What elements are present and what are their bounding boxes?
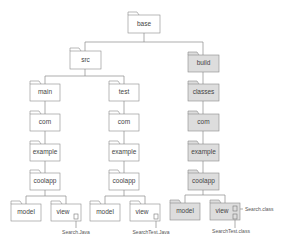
folder-com3: com xyxy=(188,111,219,131)
folder-label: example xyxy=(112,148,137,156)
file-icon xyxy=(233,206,237,211)
folder-classes: classes xyxy=(188,81,219,101)
folder-build: build xyxy=(188,52,219,72)
folder-tab-icon xyxy=(30,170,41,173)
file-label: SearchTest.class xyxy=(212,228,250,234)
folder-coolapp1: coolapp xyxy=(30,170,60,190)
folder-tab-icon xyxy=(188,81,199,84)
folder-tab-icon xyxy=(128,12,139,15)
folder-tab-icon xyxy=(11,201,22,204)
folder-coolapp3: coolapp xyxy=(188,170,219,190)
folder-test: test xyxy=(109,81,139,101)
folder-label: com xyxy=(118,118,130,125)
folder-com1: com xyxy=(30,111,60,131)
folder-tab-icon xyxy=(109,141,120,144)
folder-tab-icon xyxy=(188,111,199,114)
folder-base: base xyxy=(128,12,160,33)
folder-tab-icon xyxy=(188,52,199,55)
folder-label: coolapp xyxy=(113,177,136,185)
folder-label: classes xyxy=(193,88,215,95)
folder-label: build xyxy=(197,59,211,66)
directory-tree-diagram: basesrcbuildmaintestclassescomcomcomexam… xyxy=(0,0,287,251)
folder-label: example xyxy=(191,148,216,156)
folder-label: com xyxy=(39,118,51,125)
file-icon xyxy=(74,214,78,219)
folder-tab-icon xyxy=(130,201,141,204)
folder-nodes: basesrcbuildmaintestclassescomcomcomexam… xyxy=(11,12,240,221)
folder-example1: example xyxy=(30,141,60,161)
folder-model3: model xyxy=(170,200,200,220)
folder-label: test xyxy=(119,88,130,95)
file-label: Search.Java xyxy=(62,229,90,235)
folder-model1: model xyxy=(11,201,41,221)
folder-tab-icon xyxy=(210,200,221,203)
folder-label: view xyxy=(135,208,148,215)
folder-tab-icon xyxy=(90,201,101,204)
folder-coolapp2: coolapp xyxy=(109,170,139,190)
folder-tab-icon xyxy=(109,81,120,84)
folder-src: src xyxy=(70,48,101,69)
folder-label: view xyxy=(56,208,69,215)
folder-main: main xyxy=(30,81,60,101)
folder-example3: example xyxy=(188,141,219,161)
folder-label: base xyxy=(137,20,151,27)
folder-model2: model xyxy=(90,201,120,221)
file-icon xyxy=(154,214,158,219)
folder-example2: example xyxy=(109,141,139,161)
folder-tab-icon xyxy=(188,170,199,173)
folder-tab-icon xyxy=(109,111,120,114)
folder-label: coolapp xyxy=(192,177,215,185)
folder-label: view xyxy=(215,207,228,214)
folder-tab-icon xyxy=(70,48,81,51)
folder-tab-icon xyxy=(51,201,62,204)
folder-label: src xyxy=(81,56,90,63)
folder-label: com xyxy=(197,118,209,125)
file-label: Search.class xyxy=(245,206,274,212)
folder-tab-icon xyxy=(109,170,120,173)
folder-label: model xyxy=(17,208,35,215)
file-label: SearchTest.Java xyxy=(133,229,170,235)
file-icon xyxy=(233,214,237,219)
folder-label: model xyxy=(96,208,114,215)
folder-tab-icon xyxy=(170,200,181,203)
folder-tab-icon xyxy=(30,111,41,114)
folder-label: main xyxy=(38,88,52,95)
folder-label: example xyxy=(33,148,58,156)
folder-label: model xyxy=(176,207,194,214)
folder-tab-icon xyxy=(30,81,41,84)
folder-tab-icon xyxy=(188,141,199,144)
folder-com2: com xyxy=(109,111,139,131)
folder-label: coolapp xyxy=(34,177,57,185)
folder-tab-icon xyxy=(30,141,41,144)
